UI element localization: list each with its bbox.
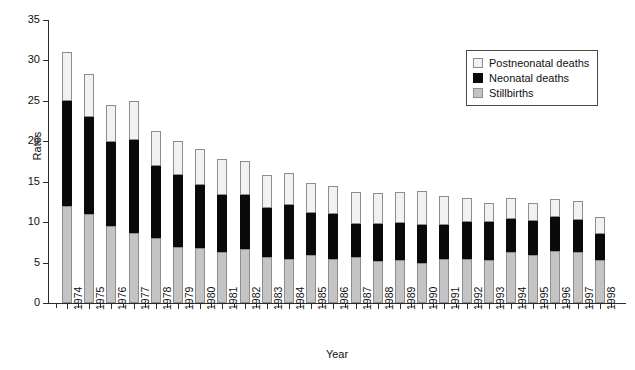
bar-stack — [439, 196, 449, 303]
y-axis-tick-label: 25 — [28, 94, 40, 106]
bar-segment-stillbirths — [506, 252, 516, 303]
bar-segment-stillbirths — [306, 255, 316, 303]
bar-segment-neonatal-deaths — [151, 166, 161, 238]
bar-stack — [573, 201, 583, 303]
bar-segment-stillbirths — [439, 259, 449, 303]
bar-segment-stillbirths — [328, 259, 338, 303]
y-axis-tick-label: 20 — [28, 134, 40, 146]
y-axis-tick-mark — [43, 101, 48, 102]
bar-segment-stillbirths — [62, 206, 72, 303]
bar-segment-stillbirths — [484, 260, 494, 303]
bar-segment-neonatal-deaths — [462, 222, 472, 259]
bar-segment-neonatal-deaths — [595, 234, 605, 260]
bar-segment-postneonatal-deaths — [151, 131, 161, 166]
x-axis-minor-tick-mark — [544, 304, 545, 308]
bar-stack — [173, 141, 183, 303]
x-axis-tick-mark — [511, 304, 512, 309]
bar-stack — [595, 217, 605, 303]
x-axis-tick-mark — [600, 304, 601, 309]
x-axis-minor-tick-mark — [167, 304, 168, 308]
x-axis-tick-mark — [111, 304, 112, 309]
x-axis-tick-mark — [555, 304, 556, 309]
bar-segment-stillbirths — [550, 251, 560, 303]
bar-segment-neonatal-deaths — [306, 213, 316, 255]
bar-segment-postneonatal-deaths — [195, 149, 205, 185]
y-axis-tick-label: 5 — [34, 256, 40, 268]
bar-segment-neonatal-deaths — [573, 220, 583, 252]
bar-segment-postneonatal-deaths — [262, 175, 272, 208]
x-axis-tick-mark — [89, 304, 90, 309]
x-axis-minor-tick-mark — [189, 304, 190, 308]
x-axis-tick-mark — [533, 304, 534, 309]
x-axis-tick-mark — [444, 304, 445, 309]
x-axis-tick-mark — [578, 304, 579, 309]
bar-stack — [262, 175, 272, 303]
bar-stack — [84, 74, 94, 303]
bar-segment-postneonatal-deaths — [506, 198, 516, 219]
bar-segment-neonatal-deaths — [106, 142, 116, 226]
bar-segment-stillbirths — [573, 252, 583, 303]
bar-segment-stillbirths — [351, 257, 361, 303]
x-axis-tick-mark — [289, 304, 290, 309]
bar-segment-stillbirths — [84, 214, 94, 303]
bar-segment-neonatal-deaths — [439, 225, 449, 260]
y-axis-tick-label: 35 — [28, 13, 40, 25]
bar-segment-stillbirths — [195, 248, 205, 303]
bar-stack — [195, 149, 205, 303]
bar-segment-postneonatal-deaths — [106, 105, 116, 142]
bar-segment-postneonatal-deaths — [240, 161, 250, 196]
bar-segment-postneonatal-deaths — [84, 74, 94, 117]
y-axis-tick-mark — [43, 60, 48, 61]
legend-item: Stillbirths — [473, 85, 589, 100]
bar-segment-neonatal-deaths — [129, 140, 139, 233]
bar-stack — [528, 203, 538, 303]
y-axis-tick-label: 15 — [28, 175, 40, 187]
bar-segment-neonatal-deaths — [62, 101, 72, 206]
x-axis-minor-tick-mark — [278, 304, 279, 308]
bar-segment-neonatal-deaths — [484, 222, 494, 260]
x-axis-minor-tick-mark — [56, 304, 57, 308]
x-axis-minor-tick-mark — [611, 304, 612, 308]
bar-segment-stillbirths — [373, 261, 383, 303]
y-axis-tick-label: 10 — [28, 215, 40, 227]
bar-segment-neonatal-deaths — [328, 214, 338, 259]
bar-segment-postneonatal-deaths — [306, 183, 316, 214]
y-axis-tick-mark — [43, 222, 48, 223]
bar-segment-stillbirths — [528, 255, 538, 304]
x-axis-title: Year — [48, 348, 626, 360]
bar-stack — [506, 198, 516, 303]
bar-segment-postneonatal-deaths — [328, 186, 338, 214]
bar-segment-neonatal-deaths — [284, 205, 294, 258]
bar-segment-stillbirths — [217, 252, 227, 303]
x-axis-minor-tick-mark — [500, 304, 501, 308]
legend-swatch-icon — [473, 58, 483, 68]
bar-stack — [284, 173, 294, 303]
bar-segment-postneonatal-deaths — [351, 192, 361, 224]
bar-segment-postneonatal-deaths — [217, 159, 227, 195]
bar-stack — [129, 101, 139, 303]
bar-segment-postneonatal-deaths — [484, 203, 494, 222]
bar-stack — [306, 183, 316, 303]
bar-stack — [328, 186, 338, 303]
x-axis-minor-tick-mark — [411, 304, 412, 308]
bar-segment-neonatal-deaths — [395, 223, 405, 260]
legend-swatch-icon — [473, 73, 483, 83]
bar-segment-stillbirths — [395, 260, 405, 303]
chart-legend: Postneonatal deathsNeonatal deathsStillb… — [466, 50, 598, 106]
x-axis-minor-tick-mark — [78, 304, 79, 308]
x-axis-minor-tick-mark — [367, 304, 368, 308]
bar-segment-postneonatal-deaths — [173, 141, 183, 175]
bar-segment-postneonatal-deaths — [595, 217, 605, 234]
legend-swatch-icon — [473, 88, 483, 98]
x-axis-minor-tick-mark — [211, 304, 212, 308]
bar-segment-neonatal-deaths — [217, 195, 227, 252]
x-axis-minor-tick-mark — [345, 304, 346, 308]
bar-segment-postneonatal-deaths — [284, 173, 294, 205]
bar-segment-postneonatal-deaths — [573, 201, 583, 220]
x-axis-minor-tick-mark — [256, 304, 257, 308]
bar-stack — [240, 161, 250, 303]
x-axis-minor-tick-mark — [145, 304, 146, 308]
y-axis-tick-mark — [43, 263, 48, 264]
x-axis-tick-mark — [333, 304, 334, 309]
bar-segment-stillbirths — [151, 238, 161, 303]
